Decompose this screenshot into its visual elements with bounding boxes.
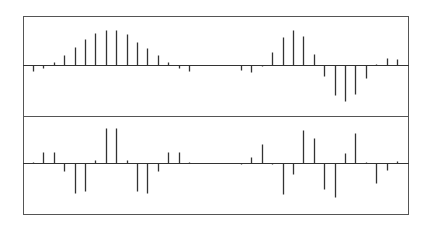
bottom-panel — [23, 129, 409, 198]
plot-frame — [24, 17, 409, 215]
stem-plot-figure — [0, 0, 428, 226]
stem-plot-canvas — [0, 0, 428, 226]
top-panel — [23, 31, 409, 102]
